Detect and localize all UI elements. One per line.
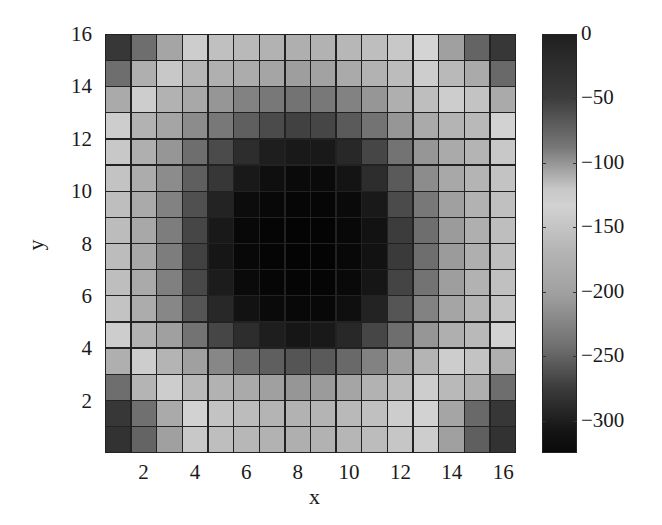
heatmap-cell <box>260 349 284 374</box>
heatmap-cell <box>286 87 310 112</box>
heatmap-cell <box>106 401 130 426</box>
heatmap-cell <box>106 166 130 191</box>
heatmap-cell <box>260 218 284 243</box>
heatmap-cell <box>362 113 386 138</box>
heatmap-cell <box>491 61 515 86</box>
heatmap-cell <box>362 427 386 452</box>
heatmap-cell <box>362 349 386 374</box>
heatmap-cell <box>106 270 130 295</box>
colorbar-tick-mark <box>542 98 546 99</box>
x-tick-label: 14 <box>432 462 472 483</box>
heatmap-cell <box>157 113 181 138</box>
heatmap-cell <box>106 87 130 112</box>
heatmap-cell <box>465 401 489 426</box>
y-tick-label: 12 <box>71 129 92 150</box>
heatmap-cell <box>439 427 463 452</box>
heatmap-cell <box>183 61 207 86</box>
heatmap-cell <box>414 375 438 400</box>
heatmap-cell <box>414 166 438 191</box>
heatmap-cell <box>388 140 412 165</box>
heatmap-cell <box>439 401 463 426</box>
heatmap-cell <box>286 427 310 452</box>
heatmap-cell <box>465 192 489 217</box>
colorbar <box>542 34 577 453</box>
heatmap-cell <box>286 375 310 400</box>
heatmap-cell <box>337 244 361 269</box>
heatmap-cell <box>439 113 463 138</box>
heatmap-cell <box>157 375 181 400</box>
heatmap-cell <box>157 427 181 452</box>
heatmap-cell <box>260 166 284 191</box>
heatmap-cell <box>157 349 181 374</box>
heatmap-cell <box>465 166 489 191</box>
heatmap-cell <box>286 349 310 374</box>
heatmap-cell <box>311 323 335 348</box>
heatmap-cell <box>491 35 515 60</box>
heatmap-cell <box>337 140 361 165</box>
heatmap-cell <box>286 401 310 426</box>
heatmap-cell <box>465 113 489 138</box>
heatmap-cell <box>157 218 181 243</box>
heatmap-cell <box>209 166 233 191</box>
heatmap-cell <box>286 140 310 165</box>
heatmap-cell <box>157 192 181 217</box>
heatmap-cell <box>388 349 412 374</box>
heatmap-cell <box>337 349 361 374</box>
heatmap-cell <box>286 323 310 348</box>
heatmap-cell <box>465 244 489 269</box>
heatmap-cell <box>362 166 386 191</box>
heatmap-cell <box>311 427 335 452</box>
heatmap-cell <box>183 427 207 452</box>
heatmap-cell <box>362 296 386 321</box>
heatmap-cell <box>491 427 515 452</box>
heatmap-cell <box>157 140 181 165</box>
heatmap-cell <box>465 218 489 243</box>
colorbar-tick-label: −100 <box>581 152 624 173</box>
heatmap-cell <box>491 349 515 374</box>
heatmap-cell <box>337 218 361 243</box>
x-tick-label: 12 <box>380 462 420 483</box>
heatmap-cell <box>388 401 412 426</box>
colorbar-tick-label: −300 <box>581 410 624 431</box>
heatmap-cell <box>260 323 284 348</box>
heatmap-cell <box>286 296 310 321</box>
heatmap-cell <box>286 218 310 243</box>
heatmap-cell <box>234 192 258 217</box>
heatmap-cell <box>362 35 386 60</box>
heatmap-cell <box>132 140 156 165</box>
x-tick-label: 16 <box>483 462 523 483</box>
heatmap-cell <box>209 140 233 165</box>
heatmap-cell <box>183 270 207 295</box>
heatmap-cell <box>414 244 438 269</box>
heatmap-cell <box>209 113 233 138</box>
heatmap-cell <box>337 323 361 348</box>
heatmap-cell <box>491 244 515 269</box>
heatmap-cell <box>388 113 412 138</box>
heatmap-cell <box>132 296 156 321</box>
heatmap-cell <box>414 61 438 86</box>
heatmap-cell <box>132 166 156 191</box>
heatmap-cell <box>106 35 130 60</box>
heatmap-cell <box>286 270 310 295</box>
heatmap-cell <box>439 166 463 191</box>
heatmap-cell <box>388 244 412 269</box>
heatmap-cell <box>491 166 515 191</box>
heatmap-cell <box>132 401 156 426</box>
heatmap-grid <box>105 34 516 453</box>
heatmap-cell <box>286 166 310 191</box>
heatmap-cell <box>183 113 207 138</box>
heatmap-cell <box>234 323 258 348</box>
heatmap-cell <box>311 375 335 400</box>
heatmap-cell <box>362 244 386 269</box>
heatmap-cell <box>132 270 156 295</box>
heatmap-cell <box>132 61 156 86</box>
heatmap-cell <box>106 349 130 374</box>
heatmap-cell <box>157 87 181 112</box>
heatmap-cell <box>311 140 335 165</box>
colorbar-tick-mark <box>573 163 577 164</box>
heatmap-cell <box>234 140 258 165</box>
heatmap-cell <box>106 244 130 269</box>
colorbar-tick-mark <box>573 356 577 357</box>
heatmap-cell <box>106 427 130 452</box>
heatmap-cell <box>491 296 515 321</box>
